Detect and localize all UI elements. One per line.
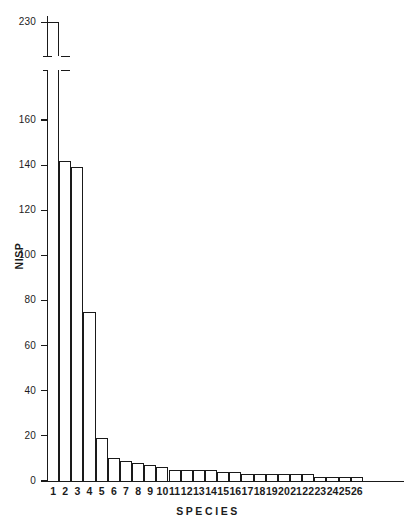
bar-1	[47, 70, 59, 481]
y-axis-tick-label-140: 140	[10, 160, 36, 170]
y-axis-tick-label-120: 120	[10, 205, 36, 215]
x-axis-label-26: 26	[349, 485, 365, 497]
y-axis-tick-label-60: 60	[10, 341, 36, 351]
bar-11	[169, 470, 181, 481]
bar-14	[205, 470, 217, 481]
bar-5	[96, 438, 108, 481]
bar-20	[278, 474, 290, 481]
chart-container: 020406080100120140160 230 12345678910111…	[0, 0, 416, 525]
bar-23	[314, 477, 326, 482]
bar-19	[266, 474, 278, 481]
bar-18	[254, 474, 266, 481]
bar-24	[326, 477, 338, 482]
y-axis-tick-label-230: 230	[10, 17, 36, 27]
y-axis-title: NISP	[13, 226, 25, 286]
bar-2	[59, 161, 71, 481]
bar-9	[144, 465, 156, 481]
y-axis-tick-label-80: 80	[10, 295, 36, 305]
bar-21	[290, 474, 302, 481]
x-axis-labels: 1234567891011121314151617181920212223242…	[47, 485, 404, 501]
x-axis-line	[47, 481, 404, 482]
bar-22	[302, 474, 314, 481]
bar-1-upper	[47, 22, 59, 56]
y-axis-tick-label-160: 160	[10, 115, 36, 125]
y-axis-tick-label-0: 0	[10, 476, 36, 486]
bar-10	[156, 467, 168, 481]
y-axis-tick-label-20: 20	[10, 431, 36, 441]
bar-4	[83, 312, 95, 481]
bar-6	[108, 458, 120, 481]
bars-group	[47, 0, 404, 481]
bar-3	[71, 167, 83, 481]
bar-25	[339, 477, 351, 482]
bar-7	[120, 461, 132, 481]
bar-8	[132, 463, 144, 481]
bar-15	[217, 472, 229, 481]
y-axis-tick-label-40: 40	[10, 386, 36, 396]
bar-26	[351, 477, 363, 482]
bar-17	[241, 474, 253, 481]
bar-13	[193, 470, 205, 481]
bar-16	[229, 472, 241, 481]
bar-12	[181, 470, 193, 481]
x-axis-title: SPECIES	[0, 505, 416, 517]
